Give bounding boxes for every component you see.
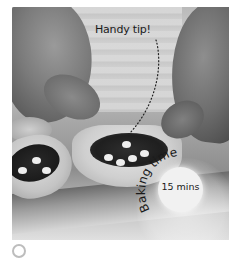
circle-icon <box>12 244 26 258</box>
svg-text:Baking time: Baking time <box>134 145 178 215</box>
